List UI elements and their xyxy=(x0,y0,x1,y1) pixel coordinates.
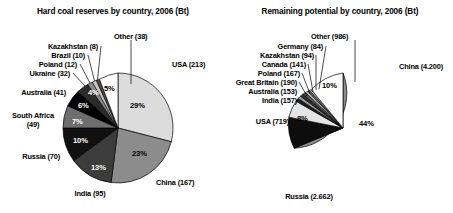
percent-russia: 10% xyxy=(73,136,88,145)
label-other: Other (38) xyxy=(114,32,147,41)
label-kazakhstan: Kazakhstan (8) xyxy=(0,42,98,51)
percent-ukraine: 4% xyxy=(88,88,99,97)
percent-china: 23% xyxy=(132,149,147,158)
label-canada: Canada (141) xyxy=(227,60,306,69)
percent-other: 5% xyxy=(104,84,115,93)
label-germany: Germany (84) xyxy=(227,42,323,51)
label-usa: USA (213) xyxy=(172,60,205,69)
label-australia: Australia (153) xyxy=(227,87,297,96)
label-china: China (167) xyxy=(156,178,194,187)
label-great-britain: Great Britain (190) xyxy=(219,78,297,87)
percent-china: 44% xyxy=(359,119,374,128)
percent-india: 13% xyxy=(91,163,106,172)
label-russia: Russia (2.662) xyxy=(269,192,349,201)
percent-other: 10% xyxy=(322,81,337,90)
label-china: China (4.200) xyxy=(399,62,443,71)
percent-australia: 6% xyxy=(78,101,89,110)
label-south-africa-value: (49) xyxy=(2,120,64,129)
label-poland: Poland (167) xyxy=(227,69,300,78)
hard-coal-reserves-chart: Hard coal reserves by country, 2006 (Bt)… xyxy=(0,0,226,213)
label-russia: Russia (70) xyxy=(0,152,60,161)
label-brazil: Brazil (10) xyxy=(0,51,85,60)
label-ukraine: Ukraine (32) xyxy=(0,69,70,78)
percent-south-africa: 7% xyxy=(72,117,83,126)
remaining-potential-chart: Remaining potential by country, 2006 (Bt… xyxy=(227,0,453,213)
label-india: India (95) xyxy=(60,189,120,198)
label-australia: Australia (41) xyxy=(0,88,66,97)
label-other: Other (986) xyxy=(311,32,348,41)
label-kazakhstan: Kazakhstan (94) xyxy=(227,51,314,60)
percent-usa: 8% xyxy=(297,114,308,123)
label-poland: Poland (12) xyxy=(0,60,77,69)
percent-russia: 28% xyxy=(309,162,324,171)
label-usa: USA (719) xyxy=(227,117,289,126)
label-south-africa: South Africa xyxy=(2,111,64,120)
label-india: India (157) xyxy=(227,96,297,105)
percent-usa: 29% xyxy=(130,101,145,110)
